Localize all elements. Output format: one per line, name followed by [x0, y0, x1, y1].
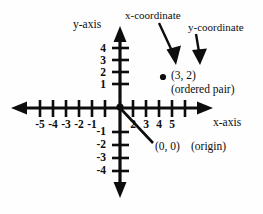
y-axis-top-arrowhead: [114, 26, 127, 42]
origin-description: (origin): [191, 141, 226, 153]
y-tick-label-2: 2: [92, 67, 106, 79]
y-tick-label-4: 4: [92, 43, 106, 55]
y-coordinate-callout-label: y-coordinate: [188, 22, 244, 33]
y-tick-label-minus-4: -4: [88, 165, 106, 177]
x-axis-label: x-axis: [213, 117, 241, 129]
x-axis-right-arrowhead: [197, 102, 213, 115]
x-axis-left-arrowhead: [11, 102, 27, 115]
x-tick-label-minus-1: -1: [82, 119, 102, 131]
coordinate-plane-diagram: y-axis x-axis x-coordinate y-coordinate …: [0, 0, 263, 214]
y-tick-label-minus-2: -2: [88, 139, 106, 151]
x-coordinate-callout-arrow: [159, 23, 181, 65]
y-axis-bottom-arrowhead: [114, 182, 127, 198]
x-coordinate-callout-label: x-coordinate: [125, 10, 181, 21]
plotted-point-3-2: [160, 74, 166, 80]
origin-label: (0, 0): [155, 141, 180, 153]
y-axis-label: y-axis: [73, 19, 101, 31]
y-axis-group: [112, 26, 129, 198]
y-tick-label-minus-3: -3: [88, 152, 106, 164]
point-description-ordered-pair: (ordered pair): [171, 84, 235, 96]
y-tick-label-3: 3: [92, 55, 106, 67]
point-label-3-2: (3, 2): [171, 70, 196, 82]
x-axis-group: [11, 100, 213, 117]
y-tick-label-1: 1: [92, 79, 106, 91]
x-tick-label-5: 5: [163, 119, 181, 131]
y-coordinate-callout-arrow: [192, 34, 207, 65]
